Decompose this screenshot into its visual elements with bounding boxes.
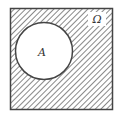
universe-label: Ω <box>91 13 101 26</box>
set-a-label: A <box>37 46 46 59</box>
venn-diagram: Ω A <box>0 0 123 120</box>
